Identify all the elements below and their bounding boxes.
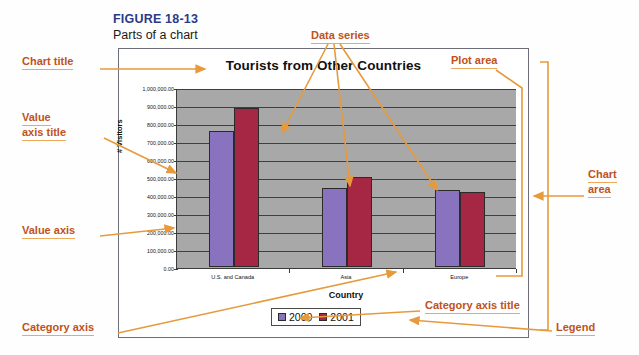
callout-value-axis-title-line1: Value xyxy=(22,111,51,126)
bar-group xyxy=(209,108,259,267)
value-axis-tick-label: 1,000,000.00 xyxy=(124,86,174,92)
legend[interactable]: 20002001 xyxy=(271,308,361,326)
callout-value-axis: Value axis xyxy=(22,224,75,239)
callout-chart-area-line1: Chart xyxy=(588,168,617,183)
value-axis: 1,000,000.00900,000.00800,000.00700,000.… xyxy=(121,89,174,269)
callout-chart-title: Chart title xyxy=(22,55,73,70)
category-axis-tick-label: U.S. and Canada xyxy=(211,274,254,280)
bracket-chart-area xyxy=(540,62,548,330)
bar-2000[interactable] xyxy=(209,131,234,267)
callout-chart-area: Chart area xyxy=(588,168,617,199)
value-axis-tick-label: 300,000.00 xyxy=(124,212,174,218)
bar-2001[interactable] xyxy=(347,177,372,267)
bar-2001[interactable] xyxy=(234,108,259,267)
callout-value-axis-title: Value axis title xyxy=(22,111,66,142)
legend-swatch-2000 xyxy=(278,313,286,321)
callout-data-series: Data series xyxy=(311,29,370,44)
value-axis-tick-label: 600,000.00 xyxy=(124,158,174,164)
callout-chart-area-line2: area xyxy=(588,183,611,198)
category-axis-tick-label: Europe xyxy=(450,274,468,280)
callout-value-axis-title-line2: axis title xyxy=(22,126,66,141)
bar-group xyxy=(322,177,372,267)
gridline xyxy=(177,89,516,90)
callout-legend: Legend xyxy=(556,321,595,336)
category-axis-tick-mark xyxy=(516,269,517,273)
plot-area xyxy=(176,89,516,269)
figure-caption: Parts of a chart xyxy=(113,28,198,42)
value-axis-tick-label: 900,000.00 xyxy=(124,104,174,110)
plot-background xyxy=(176,89,516,269)
callout-category-axis-title: Category axis title xyxy=(425,299,520,314)
category-axis-tick-label: Asia xyxy=(341,274,352,280)
callout-category-axis: Category axis xyxy=(22,321,94,336)
bar-2000[interactable] xyxy=(435,190,460,267)
legend-item-2000[interactable]: 2000 xyxy=(278,311,312,323)
category-axis-tick-mark xyxy=(289,269,290,273)
value-axis-tick-label: 100,000.00 xyxy=(124,248,174,254)
value-axis-tick-label: 0.00 xyxy=(124,266,174,272)
value-axis-tick-label: 400,000.00 xyxy=(124,194,174,200)
chart-area: Tourists from Other Countries # Visitors… xyxy=(118,48,529,338)
legend-label-2001: 2001 xyxy=(330,311,353,323)
bar-2000[interactable] xyxy=(322,188,347,267)
value-axis-tick-label: 800,000.00 xyxy=(124,122,174,128)
value-axis-tick-label: 500,000.00 xyxy=(124,176,174,182)
value-axis-tick-label: 700,000.00 xyxy=(124,140,174,146)
callout-plot-area: Plot area xyxy=(451,54,497,69)
figure-page: FIGURE 18-13 Parts of a chart Tourists f… xyxy=(0,0,639,355)
legend-item-2001[interactable]: 2001 xyxy=(319,311,353,323)
value-axis-tick-mark xyxy=(174,269,178,270)
legend-label-2000: 2000 xyxy=(289,311,312,323)
value-axis-tick-label: 200,000.00 xyxy=(124,230,174,236)
figure-number: FIGURE 18-13 xyxy=(113,12,198,26)
bar-2001[interactable] xyxy=(460,192,485,267)
category-axis-tick-mark xyxy=(403,269,404,273)
bar-group xyxy=(435,190,485,267)
legend-swatch-2001 xyxy=(319,313,327,321)
